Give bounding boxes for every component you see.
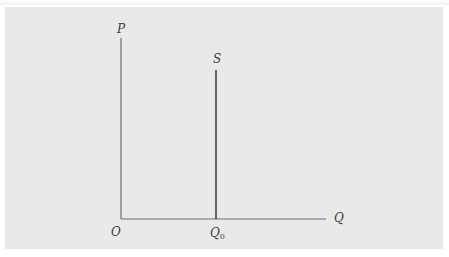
supply-diagram [0,0,449,257]
origin-label: O [111,226,121,238]
price-axis-label: P [117,23,125,35]
q0-tick-label: Q0 [210,227,225,241]
q0-main: Q [210,226,220,240]
q0-subscript: 0 [220,232,225,241]
supply-curve-label: S [213,53,221,65]
quantity-axis-label: Q [334,212,344,224]
